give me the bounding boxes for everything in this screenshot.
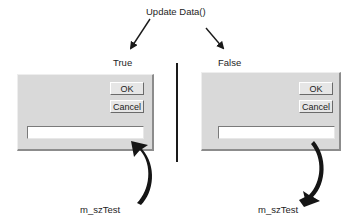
arrow-to-true-icon [131,19,150,48]
curved-arrow-down-icon [299,141,324,207]
arrow-to-false-icon [206,28,223,48]
arrows-layer [0,0,355,222]
curved-arrow-up-icon [131,141,152,205]
